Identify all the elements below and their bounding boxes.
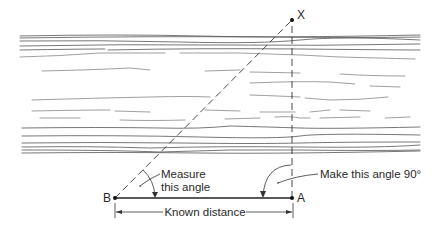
known-distance-label: Known distance (164, 206, 245, 218)
label-a: A (297, 191, 305, 205)
measure-label-line2: this angle (161, 181, 210, 193)
label-x: X (297, 8, 305, 22)
river-lines (20, 35, 420, 153)
label-b: B (103, 191, 111, 205)
leader-measure (140, 174, 160, 186)
dimension-known-distance: Known distance (115, 203, 293, 218)
river-triangulation-diagram: X B A Measure this angle Make this angle… (0, 0, 443, 231)
measure-label-line1: Measure (161, 168, 206, 180)
point-x (290, 18, 294, 22)
right-angle-label: Make this angle 90° (320, 168, 421, 180)
point-a (290, 196, 294, 200)
point-b (113, 196, 117, 200)
leader-right-angle (278, 174, 318, 183)
arrowhead-a (260, 191, 266, 198)
arrowhead-b (152, 192, 158, 198)
angle-arc-a (263, 165, 291, 196)
